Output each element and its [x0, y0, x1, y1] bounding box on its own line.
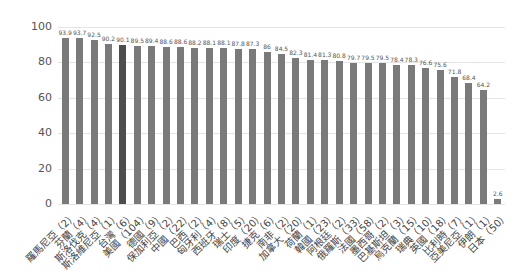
bar	[437, 70, 444, 204]
bar	[264, 52, 271, 204]
bar	[206, 48, 213, 204]
bar-chart: 02040608010093.9羅馬尼亞（2）93.7芬蘭（4）92.5斯洛伐克…	[0, 0, 528, 277]
bar	[336, 61, 343, 204]
bar	[235, 49, 242, 204]
bar	[321, 60, 328, 204]
bar	[177, 47, 184, 204]
bar	[451, 77, 458, 204]
value-label: 68.4	[457, 74, 481, 81]
bar	[91, 40, 98, 204]
y-tick-label: 100	[31, 20, 52, 33]
bar	[76, 38, 83, 204]
bar	[119, 45, 126, 204]
bar	[249, 49, 256, 204]
value-label: 2.6	[486, 190, 510, 197]
bar	[307, 60, 314, 204]
bar	[494, 199, 501, 204]
value-label: 64.2	[471, 81, 495, 88]
y-tick-label: 80	[38, 55, 52, 68]
bar	[480, 90, 487, 204]
bar	[350, 63, 357, 204]
bar	[278, 54, 285, 204]
bar	[62, 38, 69, 204]
y-tick-label: 0	[45, 197, 52, 210]
bar	[365, 63, 372, 204]
bar	[191, 48, 198, 204]
bar	[148, 46, 155, 204]
y-tick-label: 40	[38, 126, 52, 139]
gridline	[58, 27, 505, 28]
bar	[465, 83, 472, 204]
bar	[220, 48, 227, 204]
bar	[163, 47, 170, 204]
y-tick-label: 20	[38, 162, 52, 175]
bar	[292, 58, 299, 204]
bar	[422, 68, 429, 204]
bar	[393, 65, 400, 204]
bar	[134, 46, 141, 204]
y-tick-label: 60	[38, 91, 52, 104]
bar	[105, 44, 112, 204]
bar	[379, 63, 386, 204]
bar	[408, 65, 415, 204]
gridline	[58, 204, 505, 205]
